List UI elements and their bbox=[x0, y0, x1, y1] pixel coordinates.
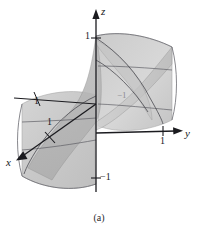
tick-label-inner-negative-1: −1 bbox=[117, 91, 127, 100]
tick-label-z-negative: −1 bbox=[100, 172, 111, 182]
tick-label-z-positive: 1 bbox=[85, 31, 90, 41]
figure-3d-surface-plot: z y x 1 −1 1 1 1 −1 (a) bbox=[0, 0, 198, 232]
surface-plot-svg bbox=[0, 0, 198, 210]
axis-label-y: y bbox=[185, 128, 190, 139]
axis-label-x: x bbox=[6, 157, 11, 168]
tick-label-y-1: 1 bbox=[160, 136, 165, 146]
plot-area bbox=[0, 0, 198, 210]
axis-label-z: z bbox=[101, 6, 105, 17]
tick-label-x-1: 1 bbox=[47, 117, 52, 127]
figure-caption: (a) bbox=[0, 212, 198, 223]
tick-label-rear-1: 1 bbox=[34, 96, 39, 106]
